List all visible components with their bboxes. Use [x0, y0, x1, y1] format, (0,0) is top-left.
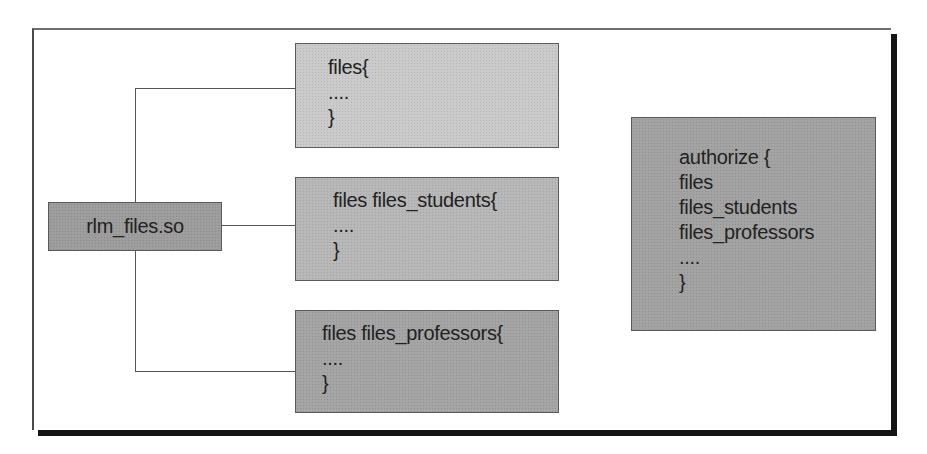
connector-to-files-professors: [135, 371, 295, 372]
instance-line: }: [333, 238, 558, 263]
instance-line: ....: [328, 80, 558, 105]
instance-line: ....: [322, 346, 558, 371]
connector-to-files: [135, 88, 295, 89]
instance-box-files-professors: files files_professors{ .... }: [295, 310, 559, 413]
instance-line: ....: [333, 213, 558, 238]
instance-line: files{: [328, 55, 558, 80]
module-label: rlm_files.so: [49, 203, 221, 250]
connector-to-files-students: [222, 225, 295, 226]
instance-line: }: [328, 105, 558, 130]
authorize-section-box: authorize { files files_students files_p…: [631, 117, 876, 331]
authorize-line: files_professors: [679, 220, 875, 245]
instance-line: files files_professors{: [322, 321, 558, 346]
instance-line: files files_students{: [333, 188, 558, 213]
authorize-line: ....: [679, 245, 875, 270]
module-box-rlm-files: rlm_files.so: [48, 202, 222, 251]
instance-box-files-students: files files_students{ .... }: [295, 177, 559, 281]
authorize-line: }: [679, 270, 875, 295]
authorize-line: files_students: [679, 195, 875, 220]
authorize-line: authorize {: [679, 145, 875, 170]
instance-box-files: files{ .... }: [295, 43, 559, 148]
authorize-line: files: [679, 170, 875, 195]
instance-line: }: [322, 371, 558, 396]
